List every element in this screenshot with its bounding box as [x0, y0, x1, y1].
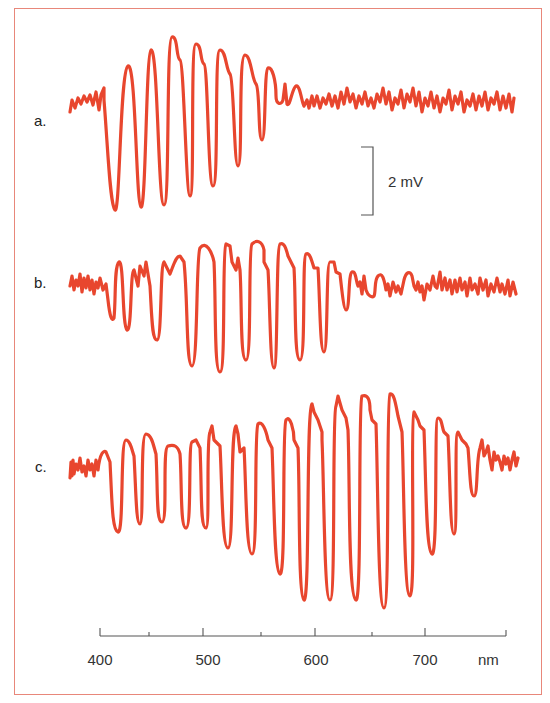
x-tick-label-600: 600 — [303, 651, 328, 668]
scale-bar — [361, 147, 373, 215]
trace-b — [70, 242, 516, 372]
trace-a — [70, 37, 514, 210]
trace-label-a: a. — [34, 112, 47, 129]
trace-c — [70, 394, 518, 608]
trace-label-c: c. — [35, 458, 47, 475]
x-axis — [100, 628, 506, 636]
scale-bar-label: 2 mV — [388, 173, 423, 190]
x-axis-unit: nm — [478, 651, 499, 668]
x-tick-label-700: 700 — [412, 651, 437, 668]
x-tick-label-400: 400 — [87, 651, 112, 668]
x-tick-label-500: 500 — [195, 651, 220, 668]
trace-label-b: b. — [34, 274, 47, 291]
traces-canvas — [0, 0, 550, 703]
